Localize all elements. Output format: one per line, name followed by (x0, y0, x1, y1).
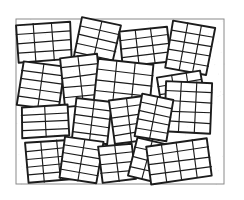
cards-layer (16, 16, 216, 184)
grid-card (146, 138, 213, 185)
grid-card (165, 20, 216, 75)
grid-card (17, 61, 66, 111)
grid-card (21, 105, 70, 139)
grid-card (58, 136, 103, 184)
scattered-cards-illustration: Scattered grid cards line drawing Black-… (0, 0, 244, 200)
figure-root: Scattered grid cards line drawing Black-… (0, 0, 244, 200)
card-outline (134, 94, 174, 143)
card-outline (165, 21, 215, 76)
